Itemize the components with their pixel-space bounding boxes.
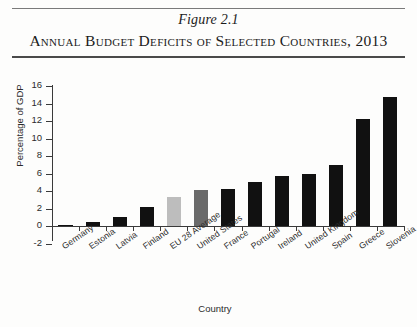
x-category-label: Greece	[357, 226, 386, 251]
bar-portugal	[248, 182, 262, 226]
y-tick-label: 0	[12, 220, 42, 230]
bar-ireland	[275, 176, 289, 226]
y-tick-label: 2	[12, 203, 42, 213]
y-tick-label: 14	[12, 98, 42, 108]
bar-latvia	[113, 217, 127, 226]
bar-chart: Percentage of GDP 1614121086420-2 German…	[0, 0, 417, 327]
y-tick-label: 10	[12, 133, 42, 143]
figure-page: Figure 2.1 Annual Budget Deficits of Sel…	[0, 0, 417, 327]
y-tick-label: 16	[12, 80, 42, 90]
x-category-label: Finland	[141, 226, 170, 251]
x-axis-label: Country	[150, 303, 280, 314]
y-tick-mark	[46, 244, 52, 245]
bar-germany	[58, 225, 72, 227]
bar-eu-28-average	[167, 197, 181, 226]
y-tick-label: 12	[12, 115, 42, 125]
bar-greece	[356, 119, 370, 226]
y-tick-label: 8	[12, 150, 42, 160]
bar-united-kingdom	[302, 174, 316, 226]
x-category-label: Slovenia	[384, 224, 417, 252]
bar-finland	[140, 207, 154, 226]
x-tick-mark	[350, 226, 351, 231]
x-category-label: Latvia	[114, 229, 139, 251]
x-tick-mark	[52, 226, 53, 231]
x-category-label: Portugal	[249, 224, 282, 251]
bar-slovenia	[383, 97, 397, 226]
y-tick-label: -2	[12, 238, 42, 248]
y-tick-label: 6	[12, 168, 42, 178]
bar-series	[52, 86, 404, 226]
y-tick-label: 4	[12, 185, 42, 195]
